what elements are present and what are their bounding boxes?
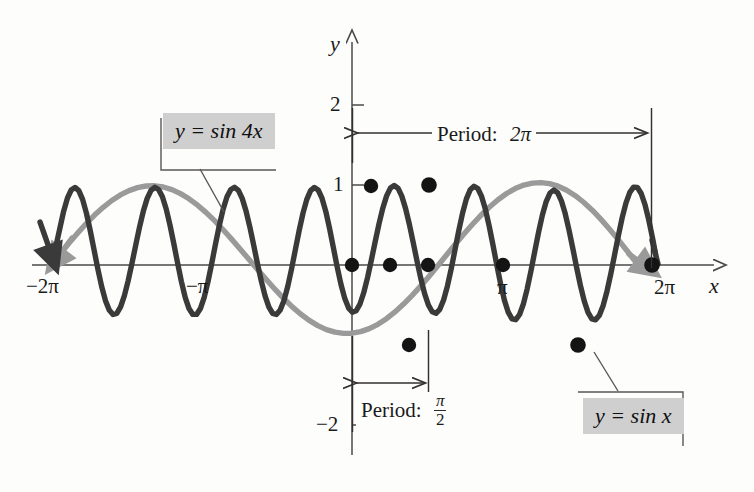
period-2pi-prefix: Period: [437,122,498,146]
x-tick-label-pi: π [497,277,508,298]
y-tick-label-1: 1 [333,174,344,195]
point-pi-over-4 [383,258,397,272]
x-tick-label-neg-2pi: −2π [26,276,59,297]
callout-sinx-leader [594,352,618,391]
curve-label-sin-4x: y = sin 4x [163,113,275,149]
period-pi2-denominator: 2 [434,410,447,429]
point-sinx-max [421,177,437,193]
curve-sin-4x [40,186,658,320]
callout-sin4x-leader [200,169,224,212]
point-3pi-over-8 [402,338,416,352]
x-tick-label-2pi: 2π [654,277,675,298]
period-2pi-value: 2π [510,122,531,146]
x-axis-label: x [709,275,719,297]
period-pi2-fraction: π 2 [434,392,447,429]
point-sinx-min [570,337,586,353]
period-pi-over-2-label: Period: π 2 [356,392,451,429]
point-pi [496,258,510,272]
period-2pi-label: Period: 2π [432,122,536,147]
x-tick-label-neg-pi: −π [186,276,208,297]
y-tick-label-neg2: −2 [316,414,338,435]
y-axis-label: y [330,33,340,55]
period-pi2-numerator: π [434,392,447,410]
curve-sin-4x-path [54,186,656,320]
y-tick-label-2: 2 [330,94,341,115]
period-pi2-prefix: Period: [361,398,422,422]
point-pi-over-8 [364,179,378,193]
curve-sin-4x-arrow-left [40,222,53,259]
figure-canvas: y x 2 1 −2 −2π −π π 2π Period: 2π Period… [0,0,754,492]
curve-label-sin-x: y = sin x [583,398,684,434]
point-origin [345,258,359,272]
point-pi-over-2 [421,258,435,272]
